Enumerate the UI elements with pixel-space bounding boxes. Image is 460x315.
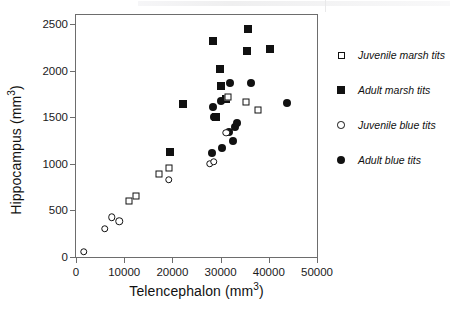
x-axis-tick-label: 40000 xyxy=(253,266,285,278)
data-point xyxy=(179,100,187,108)
x-axis-tick xyxy=(124,257,125,263)
x-axis-tick xyxy=(269,257,270,263)
x-axis-tick xyxy=(172,257,173,263)
data-point xyxy=(116,217,124,225)
y-axis-tick-label: 0 xyxy=(62,251,68,263)
y-axis-tick-label: 1500 xyxy=(42,111,68,123)
legend-item-adult-marsh-tits[interactable]: Adult marsh tits xyxy=(334,77,460,103)
legend-marker-icon xyxy=(334,52,348,59)
data-point xyxy=(243,98,250,105)
x-axis-tick-label: 10000 xyxy=(108,266,140,278)
data-point xyxy=(101,225,109,233)
data-point xyxy=(216,65,224,73)
y-axis-title-superscript: 3 xyxy=(6,90,17,96)
data-point xyxy=(255,106,262,113)
legend-item-label: Adult marsh tits xyxy=(358,84,430,96)
y-axis-tick xyxy=(70,210,76,211)
legend-item-juvenile-marsh-tits[interactable]: Juvenile marsh tits xyxy=(334,42,460,68)
data-point xyxy=(165,176,173,184)
data-point xyxy=(223,129,231,137)
y-axis-tick xyxy=(70,71,76,72)
x-axis-title-tail: ) xyxy=(259,283,264,299)
data-point xyxy=(80,248,88,256)
data-point xyxy=(218,144,226,152)
legend-marker-icon xyxy=(334,156,348,164)
panel-divider xyxy=(325,0,326,12)
legend-item-juvenile-blue-tits[interactable]: Juvenile blue tits xyxy=(334,112,460,138)
data-points-layer xyxy=(76,15,317,257)
x-axis-tick xyxy=(221,257,222,263)
plot-area: 0500100015002000250001000020000300004000… xyxy=(75,14,318,258)
y-axis-title-tail: ) xyxy=(8,85,24,90)
y-axis-title-text: Hippocampus (mm xyxy=(8,96,24,215)
y-axis-tick-label: 500 xyxy=(49,204,68,216)
x-axis-title-text: Telencephalon (mm xyxy=(129,283,253,299)
legend-item-label: Juvenile marsh tits xyxy=(358,49,445,61)
data-point xyxy=(283,99,291,107)
data-point xyxy=(209,103,217,111)
data-point xyxy=(166,148,174,156)
legend-item-label: Adult blue tits xyxy=(358,154,421,166)
data-point xyxy=(210,158,218,166)
marker-glyph xyxy=(337,121,345,129)
x-axis-tick-label: 20000 xyxy=(156,266,188,278)
data-point xyxy=(266,45,274,53)
data-point xyxy=(125,198,132,205)
x-axis-tick-label: 0 xyxy=(73,266,79,278)
legend-marker-icon xyxy=(334,86,348,94)
data-point xyxy=(155,171,162,178)
scatter-plot-figure: Hippocampus (mm3) Telencephalon (mm3) 05… xyxy=(0,0,460,315)
y-axis-tick xyxy=(70,24,76,25)
data-point xyxy=(132,192,139,199)
y-axis-tick-label: 2500 xyxy=(42,18,68,30)
data-point xyxy=(166,164,173,171)
data-point xyxy=(108,214,116,222)
legend-item-label: Juvenile blue tits xyxy=(358,119,436,131)
y-axis-tick xyxy=(70,117,76,118)
legend-marker-icon xyxy=(334,121,348,129)
data-point xyxy=(217,82,225,90)
legend-item-adult-blue-tits[interactable]: Adult blue tits xyxy=(334,147,460,173)
x-axis-tick-label: 30000 xyxy=(205,266,237,278)
x-axis-title: Telencephalon (mm3) xyxy=(75,283,318,299)
data-point xyxy=(243,47,251,55)
x-axis-tick-label: 50000 xyxy=(301,266,333,278)
marker-glyph xyxy=(338,52,345,59)
data-point xyxy=(244,25,252,33)
data-point xyxy=(247,79,255,87)
y-axis-tick xyxy=(70,164,76,165)
data-point xyxy=(229,137,237,145)
legend: Juvenile marsh titsAdult marsh titsJuven… xyxy=(334,42,460,182)
data-point xyxy=(209,37,217,45)
data-point xyxy=(233,119,241,127)
marker-glyph xyxy=(337,86,345,94)
x-axis-tick xyxy=(76,257,77,263)
y-axis-tick-label: 1000 xyxy=(42,158,68,170)
data-point xyxy=(208,149,216,157)
x-axis-tick xyxy=(317,257,318,263)
marker-glyph xyxy=(337,156,345,164)
data-point xyxy=(210,113,218,121)
cropped-caption-artifact xyxy=(138,1,450,6)
y-axis-title: Hippocampus (mm3) xyxy=(8,28,24,272)
data-point xyxy=(224,94,231,101)
y-axis-tick-label: 2000 xyxy=(42,65,68,77)
data-point xyxy=(226,79,234,87)
